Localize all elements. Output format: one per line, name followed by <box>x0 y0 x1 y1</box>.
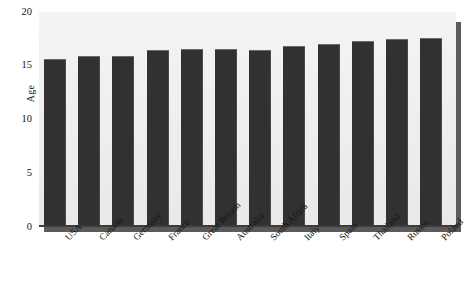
x-axis-tick-label: South Africa <box>269 236 276 243</box>
bar <box>352 41 374 227</box>
x-axis-tick-label: Australia <box>235 236 242 243</box>
y-axis-tick-label: 10 <box>4 114 32 125</box>
x-axis-tick-label: Russia <box>406 236 413 243</box>
y-axis-tick-label: 20 <box>4 7 32 18</box>
x-axis-tick-label: Great Britain <box>201 236 208 243</box>
x-axis-tick-label: France <box>167 236 174 243</box>
bar <box>112 56 134 227</box>
x-axis-tick-label: USA <box>64 236 71 243</box>
bar <box>386 39 408 227</box>
bar <box>420 38 442 227</box>
x-axis-tick-label: Poland <box>440 236 447 243</box>
bar-chart: Age 05101520 USACanadaGermanyFranceGreat… <box>0 0 466 303</box>
x-axis-tick-label: Italy <box>303 236 310 243</box>
bar <box>44 59 66 227</box>
bar <box>283 46 305 227</box>
x-axis-tick-label: Spain <box>338 236 345 243</box>
plot-right-shadow <box>456 22 461 231</box>
bar <box>249 50 271 227</box>
y-axis-tick-label: 5 <box>4 168 32 179</box>
x-axis-tick-label: Thailand <box>372 236 379 243</box>
y-axis-tick-label: 0 <box>4 222 32 233</box>
bar <box>318 44 340 227</box>
bar <box>78 56 100 227</box>
x-axis-tick-label: Canada <box>98 236 105 243</box>
bar <box>181 49 203 227</box>
x-axis-tick-label: Germany <box>132 236 139 243</box>
y-axis-tick-label: 15 <box>4 60 32 71</box>
bar <box>147 50 169 227</box>
plot-area <box>39 12 456 227</box>
